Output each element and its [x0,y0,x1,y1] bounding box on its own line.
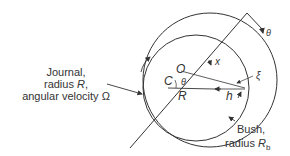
x-arrow [209,60,211,65]
bush-leader-arrow [229,117,235,121]
o-to-bush-line [181,71,245,88]
journal-label-line1: Journal, [16,66,116,78]
journal-label-line2: radius R, [16,78,116,90]
h-arrow-right [238,92,241,98]
journal-label: Journal, radius R, angular velocity Ω [16,66,116,102]
x-label: x [215,56,220,68]
bush-label: Bush, [237,123,265,135]
journal-circle [143,35,249,141]
c-label: C [164,75,173,87]
theta-angle-arc [175,80,176,88]
o-label: O [176,63,185,75]
h-label: h [226,90,233,102]
bush-label-line1: Bush, [237,123,265,135]
journal-label-line3: angular velocity Ω [16,90,116,102]
r-label: R [178,90,187,102]
xi-label: ξ [256,70,260,82]
xi-leader-arrow [237,76,253,83]
radius-line [168,88,214,89]
line-of-centres [130,13,247,148]
bush-label-line2: radius Rb [225,137,270,154]
theta-outer-label: θ [266,27,271,39]
theta-inner-label: θ [181,76,186,88]
